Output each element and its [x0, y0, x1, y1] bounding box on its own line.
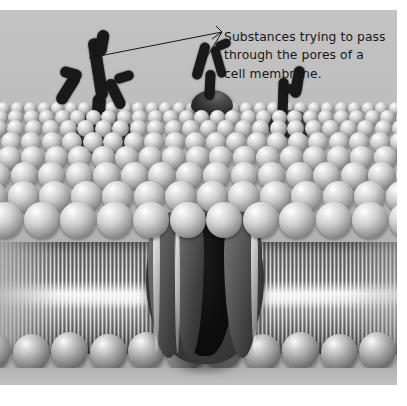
illustration-plate: Substances trying to pass through the po…: [0, 10, 397, 385]
head-group-sphere-lower: [0, 332, 11, 369]
head-group-sphere: [97, 202, 133, 238]
head-group-sphere: [24, 202, 60, 238]
substance-middle-stem: [204, 70, 216, 100]
head-group-sphere: [316, 202, 352, 238]
head-group-sphere: [133, 202, 169, 238]
annotation-line-3: cell membrane.: [224, 65, 394, 83]
upper-head-group-field: [0, 102, 397, 252]
head-group-sphere: [60, 202, 96, 238]
head-group-sphere: [352, 202, 388, 238]
substance-left-branch-1b: [94, 29, 110, 57]
head-group-sphere: [170, 202, 206, 238]
head-group-sphere-lower: [51, 332, 88, 369]
head-group-sphere: [279, 202, 315, 238]
annotation-line-1: Substances trying to pass: [224, 28, 394, 46]
head-group-sphere-lower: [13, 334, 50, 371]
head-group-sphere-lower: [321, 334, 358, 371]
head-group-sphere-lower: [90, 334, 127, 371]
floor-shadow: [0, 368, 397, 385]
head-group-sphere: [206, 202, 242, 238]
substance-left-branch-3b: [113, 69, 135, 85]
head-group-sphere-lower: [359, 332, 396, 369]
head-group-sphere: [243, 202, 279, 238]
figure-illustration: Substances trying to pass through the po…: [0, 0, 407, 406]
annotation-line-2: through the pores of a: [224, 46, 394, 64]
substance-left-branch-2b: [59, 65, 83, 82]
annotation-text: Substances trying to pass through the po…: [224, 28, 394, 83]
head-group-sphere-lower: [282, 332, 319, 369]
